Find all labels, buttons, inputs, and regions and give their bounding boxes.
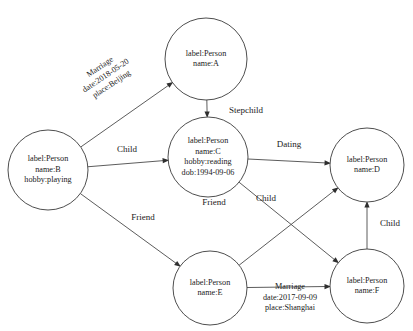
edge-line [88,161,164,167]
graph-edge [204,100,209,118]
node-property-line: label:Person [186,49,226,58]
edge-label-f-to-d: Child [380,218,401,228]
edge-line [248,159,326,163]
node-property-line: dob:1994-09-06 [182,168,235,177]
graph-diagram-canvas: label:Personname:Alabel:Personname:Bhobb… [0,0,413,331]
graph-node-c[interactable]: label:Personname:Chobby:readingdob:1994-… [168,117,248,197]
graph-edge [239,187,339,265]
node-property-line: label:Person [28,154,68,163]
graph-svg: label:Personname:Alabel:Personname:Bhobb… [0,0,413,331]
graph-edge [88,158,169,167]
node-property-line: name:D [354,165,380,174]
graph-node-b[interactable]: label:Personname:Bhobby:playing [8,130,88,210]
edge-label-line: Child [380,218,401,228]
graph-edge [80,194,181,267]
edge-label-line: date:2017-09-09 [263,293,317,302]
edge-label-b-to-c: Child [117,144,138,154]
edge-line [80,194,176,264]
edge-label-b-to-a: Marriagedate:2018-05-20place:Beijing [75,48,137,103]
node-property-line: name:A [193,59,219,68]
edge-label-c-to-d: Dating [277,139,302,149]
edge-label-line: Child [256,193,277,203]
edge-line [239,182,335,260]
edge-label-line: Friend [131,212,155,222]
graph-edge [248,159,331,165]
graph-node-e[interactable]: label:Personname:E [173,251,247,325]
edge-label-c-to-f: Friend [202,197,226,207]
node-property-line: label:Person [190,278,230,287]
nodes-layer: label:Personname:Alabel:Personname:Bhobb… [8,18,404,325]
edge-label-line: Stepchild [229,105,263,115]
graph-node-a[interactable]: label:Personname:A [165,18,247,100]
node-property-line: label:Person [347,155,387,164]
edge-label-line: Marriage [275,282,305,291]
node-property-line: hobby:reading [184,157,231,166]
edge-label-b-to-e: Friend [131,212,155,222]
edge-label-line: Dating [277,139,302,149]
graph-edge [364,201,369,249]
node-property-line: name:C [195,147,221,156]
edge-label-a-to-c: Stepchild [229,105,263,115]
node-property-line: name:B [35,165,61,174]
edge-label-line: Friend [202,197,226,207]
edge-line [239,191,334,266]
node-property-line: name:E [197,288,222,297]
graph-node-d[interactable]: label:Personname:D [330,128,404,202]
edge-label-line: Child [117,144,138,154]
node-property-line: hobby:playing [24,175,71,184]
graph-node-f[interactable]: label:Personname:F [330,249,404,323]
node-property-line: label:Person [347,276,387,285]
graph-edge [239,182,339,263]
edge-label-e-to-d: Child [256,193,277,203]
node-property-line: label:Person [188,136,228,145]
node-property-line: name:F [355,286,380,295]
edge-label-line: place:Shanghai [265,303,316,312]
